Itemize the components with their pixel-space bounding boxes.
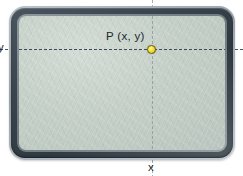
y-axis-label: y [0, 41, 4, 53]
horizontal-axis-line [19, 49, 225, 50]
point-marker-p[interactable] [147, 45, 156, 54]
vertical-axis-line [152, 16, 153, 150]
diagram-canvas: P (x, y) y x [0, 0, 243, 176]
x-axis-label: x [148, 161, 154, 173]
point-label: P (x, y) [106, 30, 145, 42]
